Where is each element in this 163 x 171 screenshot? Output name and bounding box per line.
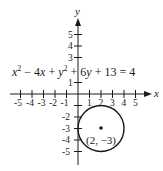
- x-tick-labels: -5 -4 -3 -2 -1 1 2 3 4 5: [14, 98, 138, 108]
- svg-text:3: 3: [68, 53, 73, 63]
- center-point: [99, 126, 103, 130]
- svg-text:-3: -3: [38, 98, 46, 108]
- eq-term: + 6: [68, 65, 87, 79]
- svg-text:-5: -5: [62, 147, 70, 157]
- svg-text:3: 3: [110, 98, 115, 108]
- center-label: (2, −3): [86, 134, 116, 147]
- y-axis-arrow-icon: [75, 18, 81, 26]
- x-axis-label: x: [153, 87, 159, 99]
- svg-text:2: 2: [99, 98, 104, 108]
- coordinate-plane: x y -5 -4 -3 -2 -1 1 2 3 4 5: [0, 0, 163, 171]
- eq-plus: +: [45, 65, 58, 79]
- svg-text:4: 4: [122, 98, 127, 108]
- circle-equation: x2 − 4x + y2 + 6y + 13 = 4: [12, 65, 135, 79]
- svg-text:1: 1: [68, 78, 73, 88]
- svg-text:-4: -4: [26, 98, 34, 108]
- y-tick-labels: 5 4 3 1 -2 -3 -4 -5: [62, 30, 73, 157]
- y-axis-label: y: [74, 5, 80, 17]
- svg-text:-5: -5: [14, 98, 22, 108]
- eq-term: − 4: [21, 65, 40, 79]
- svg-text:-1: -1: [61, 98, 69, 108]
- svg-text:-3: -3: [62, 124, 70, 134]
- x-axis-arrow-icon: [144, 91, 152, 97]
- eq-rhs: + 13 = 4: [92, 65, 136, 79]
- svg-text:5: 5: [133, 98, 138, 108]
- svg-text:4: 4: [68, 41, 73, 51]
- svg-text:1: 1: [87, 98, 92, 108]
- svg-text:5: 5: [68, 30, 73, 40]
- svg-text:-2: -2: [62, 112, 70, 122]
- svg-text:-4: -4: [62, 135, 70, 145]
- svg-text:-2: -2: [49, 98, 57, 108]
